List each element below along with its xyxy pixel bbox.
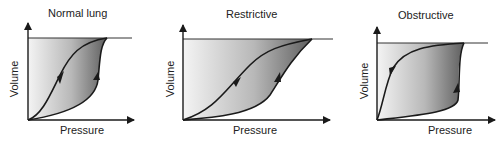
panel-title-obstructive: Obstructive <box>398 9 454 21</box>
panel-obstructive <box>377 27 495 120</box>
pressure-volume-diagram <box>0 0 501 141</box>
x-axis-label: Pressure <box>428 124 472 136</box>
y-axis-label: Volume <box>358 63 370 100</box>
y-axis-label: Volume <box>8 61 20 98</box>
panel-normal-lung <box>28 23 134 120</box>
shaded-area <box>183 39 312 120</box>
x-axis-label: Pressure <box>60 124 104 136</box>
panel-restrictive <box>183 25 333 120</box>
panel-title-normal-lung: Normal lung <box>48 7 107 19</box>
y-axis-label: Volume <box>164 61 176 98</box>
shaded-area <box>377 43 464 120</box>
x-axis-label: Pressure <box>233 124 277 136</box>
panel-title-restrictive: Restrictive <box>226 8 277 20</box>
